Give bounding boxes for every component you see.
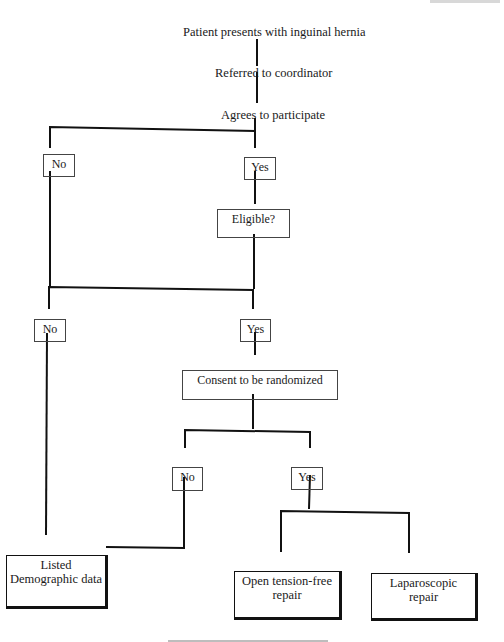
node-label-open-line-1: repair xyxy=(235,588,339,602)
node-box-yes3: Yes xyxy=(291,467,323,490)
running-header-illegible xyxy=(430,0,500,3)
node-label-consent-line-0: Consent to be randomized xyxy=(183,374,337,388)
node-label-no2-line-0: No xyxy=(35,323,65,337)
node-box-yes1: Yes xyxy=(244,157,276,180)
connector-split1-to-no1-yes1 xyxy=(50,127,255,148)
node-label-no3-line-0: No xyxy=(173,471,202,485)
node-box-listed: ListedDemographic data xyxy=(6,555,108,609)
flowchart-diagram: Patient presents with inguinal herniaRef… xyxy=(0,0,504,642)
node-label-eligible-line-0: Eligible? xyxy=(218,213,289,227)
node-label-yes2-line-0: Yes xyxy=(241,323,270,337)
node-box-eligible: Eligible? xyxy=(217,209,290,238)
node-box-no2: No xyxy=(34,319,66,342)
node-box-yes2: Yes xyxy=(240,319,271,342)
node-box-no3: No xyxy=(172,467,203,491)
connector-no2-to-listed xyxy=(46,333,47,535)
step-label-referred: Referred to coordinator xyxy=(215,67,332,80)
node-label-yes1-line-0: Yes xyxy=(245,161,275,175)
step-label-start: Patient presents with inguinal hernia xyxy=(183,26,366,39)
node-label-open-line-0: Open tension-free xyxy=(235,574,339,588)
node-label-no1-line-0: No xyxy=(44,158,74,172)
node-label-listed-line-1: Demographic data xyxy=(7,572,105,586)
connector-split3-to-no3-yes3 xyxy=(185,430,310,448)
node-box-open: Open tension-freerepair xyxy=(234,571,342,620)
node-box-consent: Consent to be randomized xyxy=(182,370,338,400)
node-label-yes3-line-0: Yes xyxy=(292,471,322,485)
connector-merge2-to-no2-yes2 xyxy=(49,287,253,309)
node-label-lap-line-1: repair xyxy=(372,590,475,604)
step-label-agrees: Agrees to participate xyxy=(221,109,325,122)
node-label-lap-line-0: Laparoscopic xyxy=(372,576,475,590)
connector-split4-to-open-lap xyxy=(281,511,409,553)
node-label-listed-line-0: Listed xyxy=(7,558,105,572)
node-box-no1: No xyxy=(43,154,75,177)
node-box-lap: Laparoscopicrepair xyxy=(371,573,478,621)
